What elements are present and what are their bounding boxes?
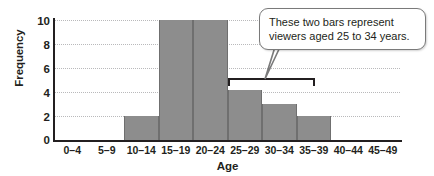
x-tick-label-30-34: 30–34: [265, 144, 294, 156]
y-axis-title: Frequency: [13, 13, 25, 103]
gridline-0: 0: [55, 140, 400, 141]
bar-10-14: [124, 116, 159, 140]
x-tick-label-15-19: 15–19: [161, 144, 190, 156]
x-tick-label-25-29: 25–29: [230, 144, 259, 156]
x-tick-label-45-49: 45–49: [368, 144, 397, 156]
bar-30-34: [262, 104, 297, 140]
x-axis-title: Age: [53, 160, 402, 172]
callout-pointer-icon: [255, 45, 283, 81]
y-tick-label-2: 2: [44, 111, 50, 123]
x-tick-label-35-39: 35–39: [299, 144, 328, 156]
y-tick-label-0: 0: [44, 134, 50, 146]
bar-35-39: [297, 116, 332, 140]
bracket-left-tick: [228, 78, 230, 86]
x-tick-label-0-4: 0–4: [63, 144, 81, 156]
y-tick-label-10: 10: [37, 15, 50, 27]
x-tick-label-10-14: 10–14: [127, 144, 156, 156]
x-axis-tick-labels: 0–4 5–9 10–14 15–19 20–24 25–29 30–34 35…: [53, 144, 402, 160]
y-tick-label-8: 8: [44, 39, 50, 51]
bar-15-19: [159, 20, 194, 140]
bar-25-29: [228, 90, 263, 140]
callout-box: These two bars represent viewers aged 25…: [259, 8, 426, 50]
x-tick-label-5-9: 5–9: [98, 144, 116, 156]
callout-line-2: viewers aged 25 to 34 years.: [269, 29, 417, 43]
x-tick-label-40-44: 40–44: [334, 144, 363, 156]
bar-20-24: [193, 20, 228, 140]
y-tick-label-6: 6: [44, 63, 50, 75]
histogram-figure: Frequency 10 8 6 4 2 0: [0, 0, 434, 176]
callout-line-1: These two bars represent: [269, 15, 417, 29]
bracket-right-tick: [313, 78, 315, 86]
x-tick-label-20-24: 20–24: [196, 144, 225, 156]
y-tick-label-4: 4: [44, 87, 50, 99]
